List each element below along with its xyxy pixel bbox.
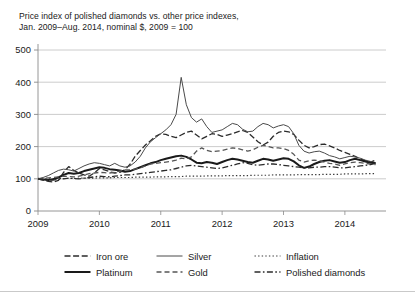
x-axis-tick-label: 2011 — [151, 218, 171, 229]
legend-line-swatch — [156, 251, 183, 261]
legend-label: Platinum — [96, 267, 132, 278]
legend-item-gold[interactable]: Gold — [156, 267, 254, 278]
legend-label: Iron ore — [96, 251, 128, 262]
y-axis-tick-label: 300 — [15, 109, 31, 120]
legend-item-platinum[interactable]: Platinum — [64, 267, 156, 278]
legend-label: Polished diamonds — [286, 267, 365, 278]
legend-label: Silver — [188, 251, 211, 262]
legend-line-swatch — [64, 267, 91, 277]
line-chart-plot: 0100200300400500200920102011201220132014 — [0, 0, 415, 245]
legend-item-silver[interactable]: Silver — [156, 251, 254, 262]
legend-item-iron-ore[interactable]: Iron ore — [64, 251, 156, 262]
y-axis-tick-label: 400 — [15, 77, 31, 88]
y-axis-tick-label: 100 — [15, 173, 31, 184]
legend-label: Gold — [188, 267, 208, 278]
bottom-divider — [0, 291, 415, 292]
legend-row: Iron oreSilverInflation — [64, 248, 394, 264]
y-axis-tick-label: 0 — [26, 205, 31, 216]
chart-figure: Price index of polished diamonds vs. oth… — [0, 0, 415, 303]
legend-line-swatch — [254, 251, 281, 261]
legend-item-inflation[interactable]: Inflation — [254, 251, 394, 262]
x-axis-tick-label: 2010 — [89, 218, 110, 229]
chart-legend: Iron oreSilverInflationPlatinumGoldPolis… — [64, 248, 394, 280]
x-axis-tick-label: 2013 — [273, 218, 294, 229]
series-line-silver — [38, 77, 376, 178]
y-axis-tick-label: 200 — [15, 141, 31, 152]
legend-line-swatch — [254, 267, 281, 277]
series-line-polished-diamonds — [38, 163, 376, 180]
legend-item-polished-diamonds[interactable]: Polished diamonds — [254, 267, 394, 278]
x-axis-tick-label: 2009 — [28, 218, 49, 229]
x-axis-tick-label: 2014 — [334, 218, 355, 229]
y-axis-tick-label: 500 — [15, 44, 31, 55]
legend-label: Inflation — [286, 251, 319, 262]
legend-line-swatch — [156, 267, 183, 277]
legend-row: PlatinumGoldPolished diamonds — [64, 264, 394, 280]
legend-line-swatch — [64, 251, 91, 261]
x-axis-tick-label: 2012 — [212, 218, 233, 229]
